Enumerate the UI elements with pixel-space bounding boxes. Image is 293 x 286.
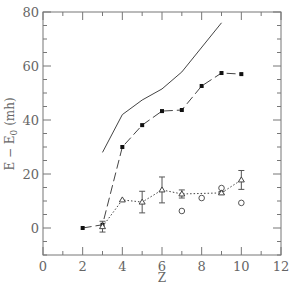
circle-marker: [199, 195, 205, 201]
triangle-marker: [100, 224, 106, 229]
y-tick-label: 60: [22, 59, 39, 74]
y-tick-label: 20: [22, 167, 39, 182]
triangle-marker: [159, 187, 165, 192]
x-axis-label: Z: [158, 271, 166, 285]
series-filled-squares: [81, 71, 244, 230]
circle-marker: [179, 208, 185, 214]
axis-ticks: 024681012020406080: [22, 5, 289, 274]
x-tick-label: 8: [198, 259, 206, 274]
x-tick-label: 4: [118, 259, 126, 274]
chart: 024681012020406080 Z E − E0 (mh): [0, 0, 293, 286]
data-series: [81, 23, 245, 232]
circle-marker: [239, 200, 245, 206]
square-marker: [120, 145, 124, 149]
square-marker: [220, 71, 224, 75]
triangle-marker: [238, 177, 244, 182]
y-tick-label: 80: [22, 5, 39, 20]
y-tick-label: 40: [22, 113, 39, 128]
square-marker: [239, 72, 243, 76]
square-marker: [200, 84, 204, 88]
square-marker: [180, 108, 184, 112]
series-open-circles: [179, 185, 244, 214]
x-tick-label: 12: [273, 259, 290, 274]
x-tick-label: 2: [79, 259, 87, 274]
plot-frame: [43, 12, 281, 255]
y-axis-label: E − E0 (mh): [3, 97, 19, 170]
x-tick-label: 10: [233, 259, 250, 274]
square-marker: [140, 123, 144, 127]
triangle-marker: [139, 199, 145, 204]
triangle-marker: [119, 197, 125, 202]
series-open-triangles: [100, 170, 245, 232]
square-marker: [81, 226, 85, 230]
square-marker: [160, 109, 164, 113]
y-tick-label: 0: [31, 221, 39, 236]
x-tick-label: 0: [39, 259, 47, 274]
